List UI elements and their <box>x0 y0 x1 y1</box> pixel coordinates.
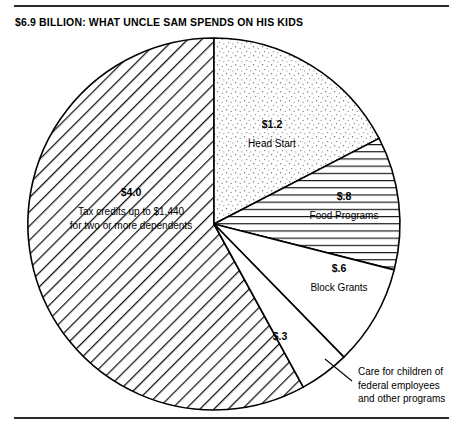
pie-slices-group <box>28 38 400 410</box>
chart-figure: $6.9 BILLION: WHAT UNCLE SAM SPENDS ON H… <box>0 0 463 440</box>
pie-chart-graphic <box>0 0 463 440</box>
bottom-divider-rule <box>14 417 449 419</box>
